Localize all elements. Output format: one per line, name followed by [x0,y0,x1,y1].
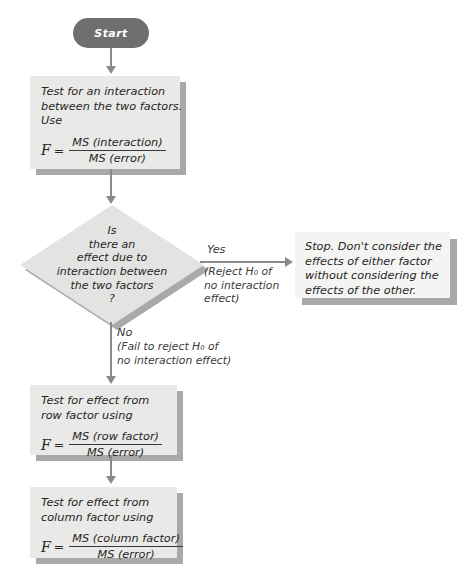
start-terminator: Start [73,18,149,48]
edge-label-no-sub-1: (Fail to reject H₀ of [117,340,237,354]
process-box-stop: Stop. Don't consider the effects of eith… [295,232,450,298]
column-factor-formula-equals: = [54,539,64,554]
arrowhead-start-to-interaction [106,66,116,74]
decision-diamond-text: Is there an effect due to interaction be… [20,205,204,325]
interaction-formula-denominator: MS (error) [89,151,146,165]
interaction-line-2: between the two factors. [41,100,170,115]
decision-line-2: there an [89,238,136,252]
connector-interaction-to-decision [110,169,112,197]
interaction-formula-equals: = [54,143,64,158]
decision-diamond-interaction: Is there an effect due to interaction be… [20,205,204,325]
column-factor-formula: F = MS (column factor) MS (error) [41,532,167,561]
edge-label-yes: Yes [207,243,289,257]
column-factor-formula-fraction: MS (column factor) MS (error) [69,532,183,561]
edge-label-no-sub-2: no interaction effect) [117,354,237,368]
row-factor-formula-numerator: MS (row factor) [69,430,162,445]
stop-line-1: Stop. Don't consider the [305,240,442,255]
interaction-formula: F = MS (interaction) MS (error) [41,136,170,165]
interaction-formula-fraction: MS (interaction) MS (error) [69,136,165,165]
connector-decision-yes [200,261,286,263]
column-factor-line-1: Test for effect from [41,496,167,511]
column-factor-formula-numerator: MS (column factor) [69,532,183,547]
row-factor-line-2: row factor using [41,409,167,424]
arrowhead-interaction-to-decision [106,196,116,204]
stop-line-4: effects of the other. [305,284,442,299]
edge-label-no-main: No [117,326,237,340]
edge-label-no: No (Fail to reject H₀ of no interaction … [117,326,237,367]
column-factor-line-2: column factor using [41,511,167,526]
decision-line-1: Is [108,224,117,238]
interaction-line-3: Use [41,114,170,129]
process-box-column-factor: Test for effect from column factor using… [30,487,177,558]
column-factor-formula-denominator: MS (error) [97,547,154,561]
interaction-line-1: Test for an interaction [41,85,170,100]
edge-label-yes-sub-2: no interaction [204,279,296,293]
decision-line-5: the two factors [70,279,153,293]
edge-label-yes-sub-1: (Reject H₀ of [204,265,296,279]
stop-line-2: effects of either factor [305,255,442,270]
row-factor-formula: F = MS (row factor) MS (error) [41,430,167,459]
column-factor-formula-variable: F [41,539,51,555]
decision-line-6: ? [109,292,115,306]
process-box-row-factor: Test for effect from row factor using F … [30,385,177,455]
connector-start-to-interaction [110,48,112,68]
edge-label-yes-sublines: (Reject H₀ of no interaction effect) [204,265,296,306]
decision-line-3: effect due to [77,251,148,265]
flowchart-canvas: Start Test for an interaction between th… [0,0,471,588]
stop-line-3: without considering the [305,269,442,284]
edge-label-yes-sub-3: effect) [204,292,296,306]
arrowhead-decision-no [106,376,116,384]
decision-line-4: interaction between [57,265,168,279]
connector-decision-no [110,322,112,378]
arrowhead-row-to-column [106,476,116,484]
row-factor-line-1: Test for effect from [41,394,167,409]
edge-label-yes-main: Yes [207,243,289,257]
interaction-formula-numerator: MS (interaction) [69,136,165,151]
row-factor-formula-fraction: MS (row factor) MS (error) [69,430,162,459]
row-factor-formula-equals: = [54,437,64,452]
process-box-interaction-test: Test for an interaction between the two … [30,76,180,169]
row-factor-formula-variable: F [41,437,51,453]
interaction-formula-variable: F [41,142,51,158]
row-factor-formula-denominator: MS (error) [87,445,144,459]
start-label: Start [94,27,127,40]
connector-row-to-column [110,455,112,478]
